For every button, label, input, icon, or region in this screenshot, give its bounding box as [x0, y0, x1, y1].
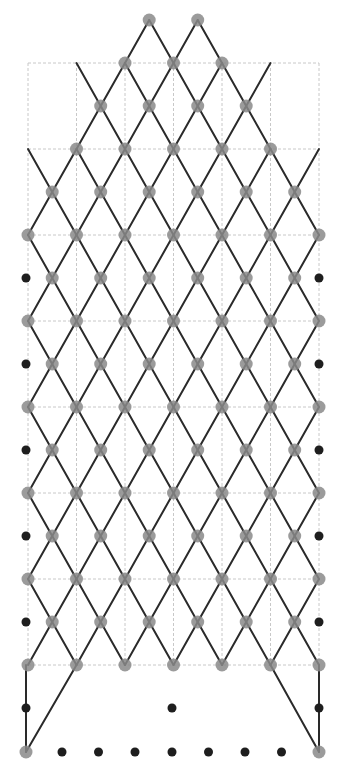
- lattice-segment: [222, 278, 246, 321]
- lattice-segment: [52, 493, 76, 536]
- grey-node: [216, 315, 229, 328]
- lattice-segment: [101, 192, 125, 235]
- grey-node: [191, 186, 204, 199]
- lattice-segment: [174, 579, 198, 622]
- lattice-segment: [271, 493, 295, 536]
- lattice-segment: [28, 450, 52, 493]
- lattice-segment: [52, 278, 76, 321]
- black-node: [315, 618, 324, 627]
- grey-node: [191, 530, 204, 543]
- grey-node: [119, 401, 132, 414]
- lattice-segment: [271, 149, 295, 192]
- grey-node: [143, 14, 156, 27]
- lattice-segment: [149, 579, 173, 622]
- lattice-segment: [222, 149, 246, 192]
- lattice-segment: [174, 278, 198, 321]
- lattice-segment: [295, 493, 319, 536]
- grey-node: [22, 659, 35, 672]
- grey-node: [191, 100, 204, 113]
- lattice-segment: [125, 622, 149, 665]
- grey-node: [240, 616, 253, 629]
- lattice-segment: [149, 493, 173, 536]
- lattice-segment: [77, 622, 101, 665]
- black-node: [58, 748, 67, 757]
- grey-node: [46, 616, 59, 629]
- grey-node: [94, 616, 107, 629]
- lattice-segment: [125, 192, 149, 235]
- lattice-segment: [295, 622, 319, 665]
- lattice-segment: [52, 622, 76, 665]
- lattice-segment: [125, 450, 149, 493]
- lattice-segment: [101, 622, 125, 665]
- lattice-segment: [174, 235, 198, 278]
- lattice-segment: [271, 235, 295, 278]
- lattice-segment: [28, 149, 52, 192]
- lattice-segment: [101, 235, 125, 278]
- grey-node: [264, 659, 277, 672]
- grey-node: [143, 616, 156, 629]
- lattice-segment: [149, 321, 173, 364]
- grey-node: [313, 746, 326, 759]
- lattice-segment: [271, 579, 295, 622]
- lattice-segment: [174, 450, 198, 493]
- lattice-segment: [149, 536, 173, 579]
- lattice-segment: [125, 321, 149, 364]
- grey-node: [288, 444, 301, 457]
- black-node: [204, 748, 213, 757]
- lattice-segment: [246, 149, 270, 192]
- lattice-segment: [295, 450, 319, 493]
- lattice-segment: [222, 106, 246, 149]
- grey-node: [313, 487, 326, 500]
- lattice-segment: [198, 149, 222, 192]
- lattice-segment: [28, 321, 52, 364]
- lattice-segment: [271, 665, 320, 752]
- lattice-segment: [246, 407, 270, 450]
- lattice-segment: [198, 63, 222, 106]
- grey-node: [143, 272, 156, 285]
- lattice-segment: [149, 278, 173, 321]
- lattice-segment: [149, 235, 173, 278]
- lattice-segment: [295, 579, 319, 622]
- lattice-segment: [295, 321, 319, 364]
- lattice-segment: [149, 149, 173, 192]
- grey-node: [216, 573, 229, 586]
- grey-node: [119, 315, 132, 328]
- lattice-segment: [101, 278, 125, 321]
- lattice-segment: [149, 407, 173, 450]
- grey-node: [288, 358, 301, 371]
- lattice-segment: [222, 407, 246, 450]
- grey-node: [70, 573, 83, 586]
- lattice-segment: [174, 321, 198, 364]
- grey-node: [191, 272, 204, 285]
- lattice-segment: [222, 63, 246, 106]
- lattice-segment: [295, 235, 319, 278]
- lattice-segment: [125, 493, 149, 536]
- lattice-segment: [149, 622, 173, 665]
- grey-node: [119, 659, 132, 672]
- lattice-segment: [26, 665, 77, 752]
- lattice-segment: [271, 321, 295, 364]
- grey-node: [94, 186, 107, 199]
- grey-node: [240, 444, 253, 457]
- lattice-segment: [77, 536, 101, 579]
- lattice-segment: [198, 622, 222, 665]
- lattice-segment: [271, 192, 295, 235]
- grey-node: [70, 659, 83, 672]
- lattice-segment: [222, 364, 246, 407]
- grey-node: [46, 530, 59, 543]
- lattice-segment: [101, 493, 125, 536]
- lattice-segment: [174, 622, 198, 665]
- grey-node: [94, 272, 107, 285]
- grey-node: [240, 100, 253, 113]
- lattice-segment: [246, 235, 270, 278]
- grey-node: [70, 143, 83, 156]
- grey-node: [167, 229, 180, 242]
- lattice-segment: [77, 579, 101, 622]
- lattice-segment: [125, 63, 149, 106]
- grey-node: [119, 57, 132, 70]
- lattice-segment: [198, 579, 222, 622]
- lattice-segment: [271, 622, 295, 665]
- black-node: [22, 704, 31, 713]
- lattice-segment: [198, 20, 222, 63]
- grey-node: [70, 401, 83, 414]
